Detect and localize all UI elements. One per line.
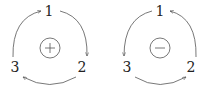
diagram-positive: 1 2 3 bbox=[11, 3, 87, 85]
diagram-negative: 1 2 3 bbox=[123, 3, 196, 85]
node-2: 2 bbox=[187, 59, 196, 75]
plus-icon bbox=[45, 43, 55, 53]
node-1: 1 bbox=[156, 3, 165, 19]
node-3: 3 bbox=[123, 59, 132, 75]
arrow-2-to-3 bbox=[23, 77, 76, 85]
arrow-1-to-2 bbox=[60, 11, 87, 56]
node-2: 2 bbox=[78, 59, 87, 75]
node-1: 1 bbox=[45, 3, 54, 19]
node-3: 3 bbox=[11, 59, 20, 75]
arrow-2-to-1 bbox=[170, 11, 196, 57]
arrow-3-to-2 bbox=[135, 77, 186, 85]
arrow-3-to-1 bbox=[13, 11, 41, 57]
arrow-1-to-3 bbox=[124, 11, 152, 56]
orientation-diagrams: 1 2 3 1 2 3 bbox=[0, 0, 207, 92]
